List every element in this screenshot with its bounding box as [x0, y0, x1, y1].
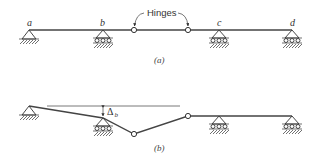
hinges-callout: Hinges	[147, 7, 177, 18]
hinge-1-icon	[131, 131, 136, 136]
label-c: c	[217, 17, 222, 28]
support-d-roller-icon	[282, 30, 302, 48]
support-a-pin-icon	[19, 106, 39, 120]
support-a-pin-icon	[19, 30, 39, 44]
label-b: b	[100, 17, 105, 28]
panel-a: a b c d Hinges (a)	[19, 7, 302, 65]
hinge-2-icon	[185, 113, 190, 118]
support-d-roller-icon	[282, 116, 302, 134]
label-a: a	[27, 17, 32, 28]
hinge-arrow-1-icon	[135, 13, 145, 26]
support-c-roller-icon	[209, 116, 229, 134]
caption-a: (a)	[154, 55, 165, 65]
support-b-roller-icon	[93, 118, 113, 136]
panel-b: Δb (b)	[19, 106, 302, 153]
caption-b: (b)	[154, 143, 165, 153]
beam-diagram: a b c d Hinges (a) Δb (b)	[0, 0, 318, 163]
delta-label: Δb	[107, 106, 118, 119]
hinge-arrow-2-icon	[178, 13, 188, 26]
hinge-2-icon	[185, 27, 190, 32]
support-b-roller-icon	[93, 30, 113, 48]
deflected-beam	[29, 106, 292, 134]
label-d: d	[290, 17, 296, 28]
hinge-1-icon	[131, 27, 136, 32]
support-c-roller-icon	[209, 30, 229, 48]
